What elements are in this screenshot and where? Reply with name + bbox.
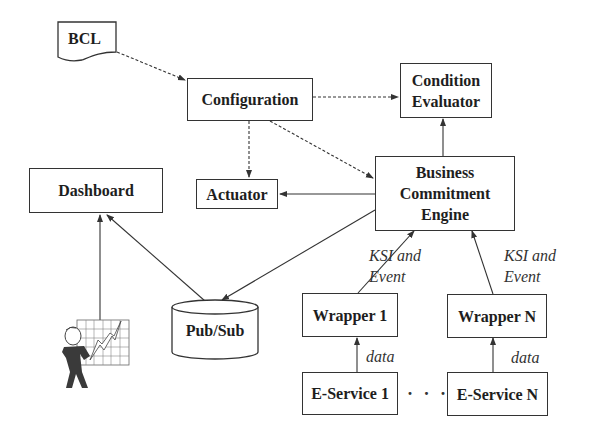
edge-label-data-1: data — [366, 346, 394, 367]
condition-evaluator-node[interactable]: Condition Evaluator — [400, 63, 492, 118]
actuator-node[interactable]: Actuator — [196, 179, 278, 209]
wrapper-n-label: Wrapper N — [458, 306, 536, 327]
edge-label-ksi-event-1: KSI and Event — [369, 245, 421, 287]
configuration-node[interactable]: Configuration — [187, 78, 313, 121]
actuator-label: Actuator — [206, 184, 267, 205]
edge-engine-pubsub — [222, 210, 375, 300]
eservice-1-label: E-Service 1 — [311, 383, 389, 404]
engine-label-line1: Business — [416, 162, 475, 183]
ksi-event-1-line1: KSI and — [369, 245, 421, 266]
eservice-1-node[interactable]: E-Service 1 — [302, 372, 398, 415]
business-commitment-engine-node[interactable]: Business Commitment Engine — [375, 156, 515, 231]
dashboard-node[interactable]: Dashboard — [29, 168, 163, 213]
dashboard-label: Dashboard — [58, 180, 134, 201]
pubsub-label: Pub/Sub — [181, 320, 249, 341]
eservice-n-label: E-Service N — [457, 384, 538, 405]
condition-evaluator-label-line1: Condition — [412, 70, 480, 91]
wrapper-1-node[interactable]: Wrapper 1 — [302, 293, 398, 337]
bcl-label: BCL — [68, 28, 101, 49]
edge-label-data-n: data — [511, 347, 539, 368]
edge-bcl-configuration — [117, 52, 185, 80]
eservice-n-node[interactable]: E-Service N — [447, 372, 548, 416]
ksi-event-1-line2: Event — [369, 266, 421, 287]
wrapper-1-label: Wrapper 1 — [313, 305, 388, 326]
edge-wrappern-engine — [472, 231, 493, 294]
ellipsis: · · · — [407, 384, 449, 405]
edge-label-ksi-event-n: KSI and Event — [504, 245, 556, 287]
edge-configuration-engine — [270, 121, 373, 178]
ksi-event-n-line1: KSI and — [504, 245, 556, 266]
configuration-label: Configuration — [202, 89, 299, 110]
condition-evaluator-label-line2: Evaluator — [412, 91, 480, 112]
wrapper-n-node[interactable]: Wrapper N — [447, 294, 547, 338]
engine-label-line3: Engine — [421, 204, 469, 225]
business-person-chart-icon — [62, 320, 129, 388]
edge-pubsub-dashboard — [107, 215, 205, 301]
ksi-event-n-line2: Event — [504, 266, 556, 287]
engine-label-line2: Commitment — [400, 183, 491, 204]
